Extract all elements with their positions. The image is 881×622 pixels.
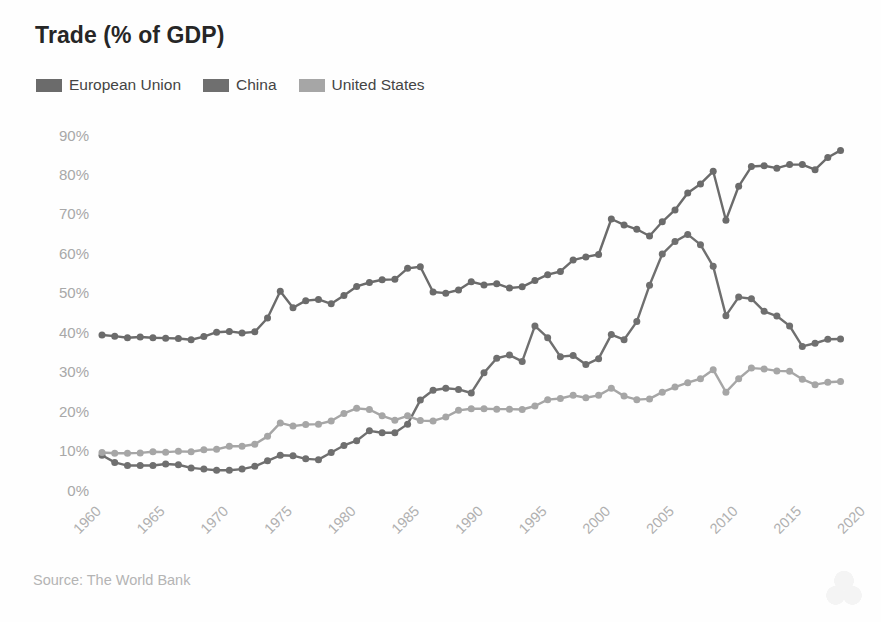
data-point-marker bbox=[353, 437, 360, 444]
data-point-marker bbox=[672, 238, 679, 245]
data-point-marker bbox=[213, 329, 220, 336]
data-point-marker bbox=[722, 312, 729, 319]
data-point-marker bbox=[735, 294, 742, 301]
data-point-marker bbox=[697, 241, 704, 248]
data-point-marker bbox=[239, 443, 246, 450]
data-point-marker bbox=[519, 406, 526, 413]
y-axis-tick-label: 30% bbox=[59, 363, 89, 380]
data-point-marker bbox=[430, 417, 437, 424]
data-point-marker bbox=[162, 335, 169, 342]
x-axis-tick-label: 1970 bbox=[197, 503, 231, 537]
data-point-marker bbox=[366, 427, 373, 434]
data-point-marker bbox=[111, 450, 118, 457]
data-point-marker bbox=[519, 358, 526, 365]
data-point-marker bbox=[353, 405, 360, 412]
watermark-logo-icon bbox=[823, 566, 865, 608]
data-point-marker bbox=[481, 405, 488, 412]
data-point-marker bbox=[493, 280, 500, 287]
data-point-marker bbox=[659, 251, 666, 258]
data-point-marker bbox=[277, 452, 284, 459]
data-point-marker bbox=[251, 463, 258, 470]
data-point-marker bbox=[124, 334, 131, 341]
data-point-marker bbox=[722, 217, 729, 224]
y-axis-tick-label: 0% bbox=[67, 482, 89, 499]
y-axis-tick-label: 70% bbox=[59, 205, 89, 222]
data-point-marker bbox=[226, 467, 233, 474]
y-axis: 90%80%70%60%50%40%30%20%10%0% bbox=[59, 127, 89, 499]
data-point-marker bbox=[582, 361, 589, 368]
data-point-marker bbox=[302, 421, 309, 428]
data-point-marker bbox=[404, 412, 411, 419]
data-point-marker bbox=[799, 161, 806, 168]
x-axis-tick-label: 2020 bbox=[834, 503, 868, 537]
data-point-marker bbox=[290, 423, 297, 430]
data-point-marker bbox=[531, 277, 538, 284]
data-point-marker bbox=[442, 414, 449, 421]
data-point-marker bbox=[111, 459, 118, 466]
data-point-marker bbox=[812, 166, 819, 173]
data-point-marker bbox=[837, 335, 844, 342]
data-point-marker bbox=[608, 216, 615, 223]
data-point-marker bbox=[799, 376, 806, 383]
data-point-marker bbox=[200, 446, 207, 453]
data-point-marker bbox=[646, 232, 653, 239]
y-axis-tick-label: 60% bbox=[59, 245, 89, 262]
series-united-states bbox=[99, 365, 845, 457]
data-point-marker bbox=[353, 283, 360, 290]
data-point-marker bbox=[124, 462, 131, 469]
data-point-marker bbox=[786, 161, 793, 168]
data-point-marker bbox=[404, 421, 411, 428]
data-point-marker bbox=[149, 462, 156, 469]
plot-area: 90%80%70%60%50%40%30%20%10%0% 1960196519… bbox=[0, 0, 881, 622]
data-point-marker bbox=[608, 331, 615, 338]
data-point-marker bbox=[468, 389, 475, 396]
data-point-marker bbox=[506, 352, 513, 359]
data-point-marker bbox=[455, 386, 462, 393]
data-point-marker bbox=[672, 384, 679, 391]
data-point-marker bbox=[111, 333, 118, 340]
data-point-marker bbox=[251, 441, 258, 448]
data-point-marker bbox=[137, 449, 144, 456]
data-point-marker bbox=[710, 366, 717, 373]
data-point-marker bbox=[315, 296, 322, 303]
data-point-marker bbox=[455, 407, 462, 414]
data-point-marker bbox=[531, 322, 538, 329]
data-point-marker bbox=[315, 456, 322, 463]
data-point-marker bbox=[684, 189, 691, 196]
data-point-marker bbox=[149, 334, 156, 341]
data-point-marker bbox=[251, 328, 258, 335]
data-point-marker bbox=[646, 395, 653, 402]
data-point-marker bbox=[697, 180, 704, 187]
y-axis-tick-label: 20% bbox=[59, 403, 89, 420]
data-point-marker bbox=[124, 450, 131, 457]
data-point-marker bbox=[290, 452, 297, 459]
data-point-marker bbox=[162, 449, 169, 456]
data-point-marker bbox=[570, 352, 577, 359]
series-layer bbox=[99, 147, 845, 474]
data-point-marker bbox=[430, 288, 437, 295]
data-point-marker bbox=[99, 449, 106, 456]
data-point-marker bbox=[621, 336, 628, 343]
data-point-marker bbox=[570, 392, 577, 399]
data-point-marker bbox=[328, 417, 335, 424]
data-point-marker bbox=[430, 387, 437, 394]
series-china bbox=[99, 231, 845, 474]
data-point-marker bbox=[442, 385, 449, 392]
x-axis-tick-label: 2000 bbox=[579, 503, 613, 537]
x-axis-tick-label: 2015 bbox=[770, 503, 804, 537]
data-point-marker bbox=[137, 333, 144, 340]
data-point-marker bbox=[162, 460, 169, 467]
data-point-marker bbox=[328, 300, 335, 307]
data-point-marker bbox=[175, 335, 182, 342]
data-point-marker bbox=[799, 343, 806, 350]
data-point-marker bbox=[786, 368, 793, 375]
data-point-marker bbox=[417, 397, 424, 404]
data-point-marker bbox=[582, 253, 589, 260]
data-point-marker bbox=[493, 406, 500, 413]
data-point-marker bbox=[812, 340, 819, 347]
data-point-marker bbox=[340, 442, 347, 449]
data-point-marker bbox=[608, 385, 615, 392]
source-note: Source: The World Bank bbox=[33, 572, 190, 588]
data-point-marker bbox=[302, 297, 309, 304]
data-point-marker bbox=[315, 421, 322, 428]
